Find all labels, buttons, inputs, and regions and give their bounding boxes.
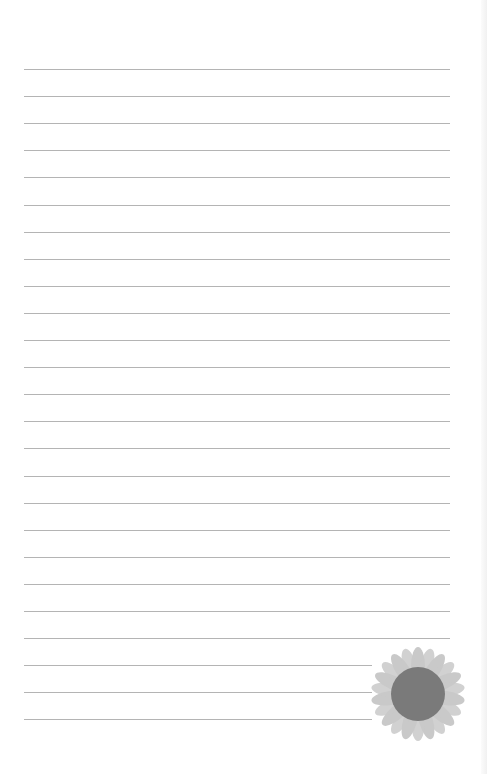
ruled-line xyxy=(24,123,450,124)
ruled-line xyxy=(24,611,450,612)
ruled-line xyxy=(24,557,450,558)
ruled-line xyxy=(24,584,450,585)
ruled-line xyxy=(24,367,450,368)
ruled-line xyxy=(24,96,450,97)
sunflower-icon xyxy=(370,646,466,742)
ruled-line xyxy=(24,205,450,206)
page-edge-shadow xyxy=(481,0,487,774)
ruled-line xyxy=(24,503,450,504)
ruled-line xyxy=(24,638,450,639)
ruled-line xyxy=(24,313,450,314)
ruled-line xyxy=(24,259,450,260)
ruled-line xyxy=(24,692,372,693)
ruled-line xyxy=(24,476,450,477)
ruled-line xyxy=(24,665,372,666)
ruled-line xyxy=(24,69,450,70)
ruled-line xyxy=(24,530,450,531)
ruled-line xyxy=(24,448,450,449)
ruled-line xyxy=(24,150,450,151)
ruled-line xyxy=(24,286,450,287)
ruled-line xyxy=(24,719,372,720)
ruled-line xyxy=(24,394,450,395)
ruled-line xyxy=(24,421,450,422)
notepaper-page xyxy=(0,0,487,774)
ruled-line xyxy=(24,232,450,233)
ruled-line xyxy=(24,340,450,341)
ruled-line xyxy=(24,177,450,178)
